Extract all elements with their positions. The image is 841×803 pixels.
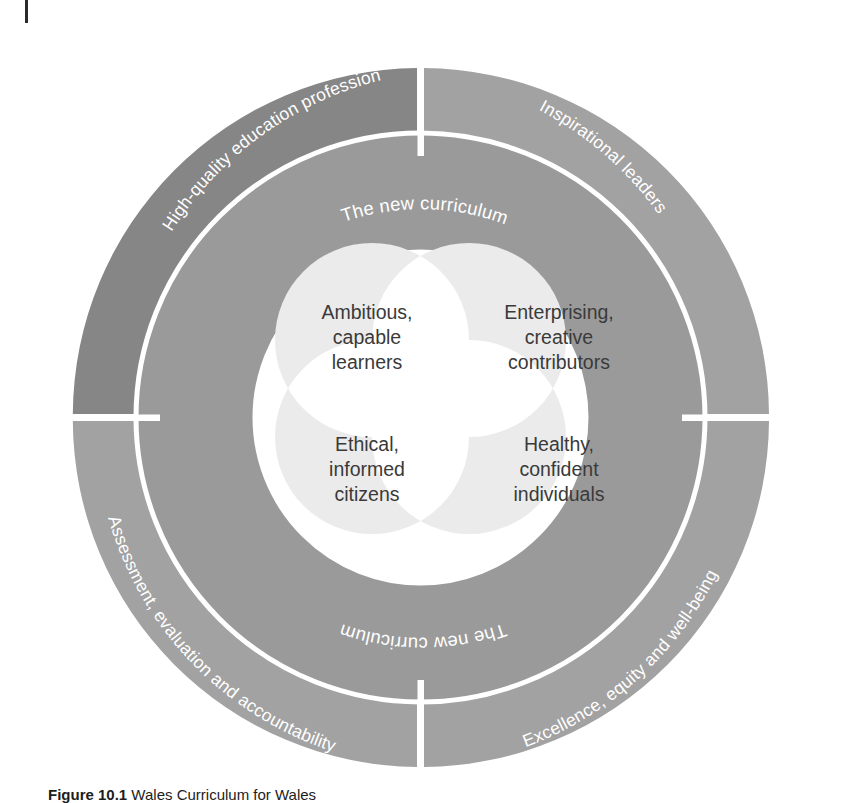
divider-left [70,415,160,422]
figure-caption-label: Figure 10.1 [48,786,127,803]
core-label-healthy-confident-individuals: Healthy, confident individuals [474,432,644,507]
core-label-enterprising-creative-contributors: Enterprising, creative contributors [474,300,644,375]
divider-top [418,66,425,156]
divider-right [682,415,772,422]
divider-bottom [418,680,425,770]
core-label-ethical-informed-citizens: Ethical, informed citizens [282,432,452,507]
figure-caption: Figure 10.1 Wales Curriculum for Wales [48,786,316,803]
figure-caption-text: Wales Curriculum for Wales [127,786,316,803]
core-label-ambitious-capable-learners: Ambitious, capable learners [282,300,452,375]
